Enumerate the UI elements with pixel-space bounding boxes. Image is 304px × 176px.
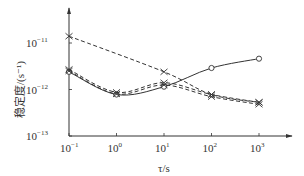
series-solid-circle xyxy=(66,56,261,97)
y-axis-title: 稳定度/(s⁻¹) xyxy=(13,61,27,118)
cross-marker xyxy=(161,69,168,75)
x-tick-label: 101 xyxy=(155,141,170,154)
x-tick-label: 103 xyxy=(250,141,265,154)
axes xyxy=(69,8,292,136)
x-tick-label: 100 xyxy=(108,141,123,154)
circle-marker xyxy=(209,65,214,70)
x-axis-title: τ/s xyxy=(158,162,170,174)
data-series xyxy=(66,33,263,107)
axis-labels: 10−110010110210310−1110−1210−13τ/s稳定度/(s… xyxy=(13,36,265,174)
y-tick-label: 10−12 xyxy=(26,83,48,96)
circle-marker xyxy=(256,56,261,61)
x-tick-label: 10−1 xyxy=(60,141,79,154)
stability-chart: 10−110010110210310−1110−1210−13τ/s稳定度/(s… xyxy=(0,0,304,176)
y-tick-label: 10−13 xyxy=(26,129,48,142)
x-tick-label: 102 xyxy=(203,141,218,154)
series-dashed-cross-upper xyxy=(66,33,263,105)
y-tick-label: 10−11 xyxy=(26,36,48,49)
